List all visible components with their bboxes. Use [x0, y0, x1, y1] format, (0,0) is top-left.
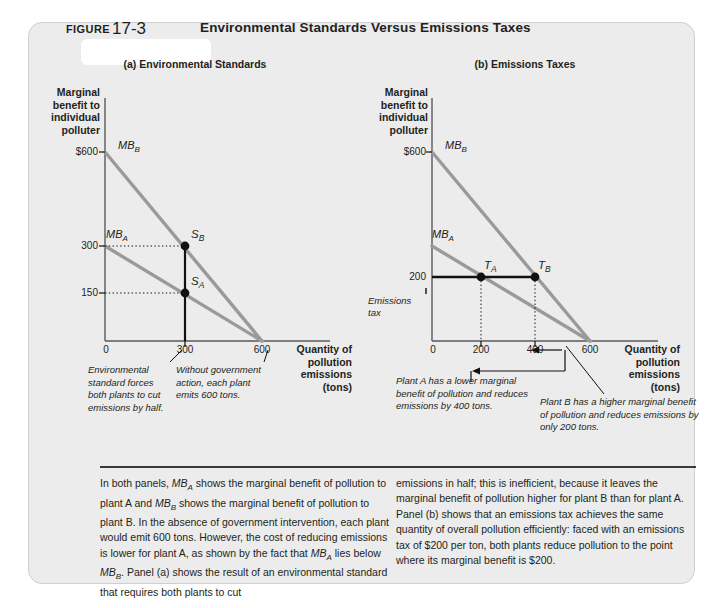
caption-divider	[100, 466, 696, 468]
panel-b-curve-label-mbb: MBB	[445, 139, 467, 154]
caption-left-column: In both panels, MBA shows the marginal b…	[100, 476, 390, 600]
figure-badge-number: 17-3	[112, 19, 146, 39]
panel-a-xtick-600: 600	[242, 344, 282, 355]
panel-a-curve-label-mba: MBA	[106, 228, 128, 243]
panel-b-ytick-600: $600	[380, 146, 426, 157]
panel-b-xtick-0: 0	[413, 344, 453, 355]
panel-a-point-label-sa: SA	[191, 275, 204, 290]
panel-a-point-label-sb: SB	[191, 228, 204, 243]
panel-b-callout-plant-a: Plant A has a lower marginal benefit of …	[396, 375, 546, 413]
figure-badge-label: Figure	[66, 23, 110, 35]
panel-a-xtick-300: 300	[165, 344, 205, 355]
panel-a-x-axis-label: Quantity of pollution emissions (tons)	[278, 343, 352, 393]
panel-b-curve-label-mba: MBA	[432, 228, 454, 243]
panel-a-xtick-0: 0	[86, 344, 126, 355]
panel-a-ytick-300: 300	[52, 240, 98, 251]
panel-b-y-axis-label: Marginal benefit to individual polluter	[366, 86, 428, 136]
panel-b-x-axis-label: Quantity of pollution emissions (tons)	[606, 343, 680, 393]
panel-a-title: (a) Environmental Standards	[60, 58, 330, 70]
panel-b-emissions-tax-label: Emissions tax	[368, 295, 428, 319]
panel-a-callout-no-action: Without government action, each plant em…	[176, 364, 268, 402]
panel-b-callout-plant-b: Plant B has a higher marginal benefit of…	[540, 396, 700, 434]
panel-a-ytick-600: $600	[52, 146, 98, 157]
panel-b-xtick-400: 400	[515, 344, 555, 355]
panel-a-y-axis-label: Marginal benefit to individual polluter	[38, 86, 100, 136]
panel-b-ytick-200: 200	[380, 271, 426, 282]
panel-b-xtick-600: 600	[570, 344, 610, 355]
panel-b-point-label-ta: TA	[484, 259, 497, 274]
panel-a-callout-standard: Environmental standard forces both plant…	[88, 364, 166, 414]
panel-b-point-label-tb: TB	[538, 259, 551, 274]
figure-title: Environmental Standards Versus Emissions…	[200, 20, 531, 35]
caption-right-column: emissions in half; this is inefficient, …	[396, 476, 686, 568]
panel-a-ytick-150: 150	[52, 287, 98, 298]
panel-a-curve-label-mbb: MBB	[118, 139, 140, 154]
panel-b-xtick-200: 200	[461, 344, 501, 355]
panel-b-title: (b) Emissions Taxes	[390, 58, 660, 70]
